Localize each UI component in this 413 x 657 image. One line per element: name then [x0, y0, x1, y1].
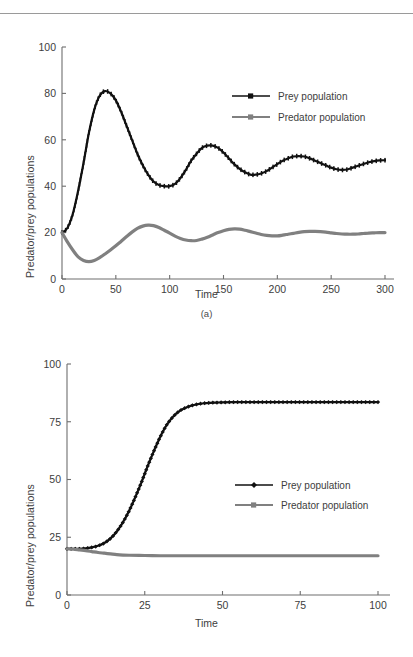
y-tick-label: 0 — [55, 589, 61, 601]
y-tick-label: 40 — [44, 180, 56, 192]
data-point-marker — [309, 156, 311, 161]
data-point-marker — [119, 107, 121, 112]
data-point-marker — [76, 195, 78, 200]
data-point-marker — [129, 131, 131, 136]
data-point-marker — [248, 172, 250, 177]
series-predator — [62, 225, 385, 261]
data-point-marker — [277, 400, 281, 404]
legend-swatch-marker — [251, 482, 257, 488]
data-point-marker — [202, 145, 204, 150]
data-point-marker — [343, 400, 347, 404]
data-point-marker — [103, 89, 105, 94]
legend-entry-label: Predator population — [278, 112, 365, 123]
y-tick-label: 0 — [50, 273, 56, 285]
series-line — [67, 549, 378, 556]
data-point-marker — [82, 165, 84, 170]
data-point-marker — [368, 400, 372, 404]
data-point-marker — [314, 400, 318, 404]
data-point-marker — [302, 400, 306, 404]
chart-b-y-axis-label: Predator/prey populations — [24, 484, 36, 607]
chart-a-y-axis-label: Predator/prey populations — [24, 155, 36, 278]
chart-a-panel-caption: (a) — [0, 308, 413, 319]
data-point-marker — [127, 127, 129, 132]
data-point-marker — [244, 170, 246, 175]
data-point-marker — [196, 152, 198, 157]
data-point-marker — [96, 100, 98, 105]
data-point-marker — [124, 119, 126, 124]
data-point-marker — [142, 164, 144, 169]
legend-entry-label: Prey population — [281, 480, 351, 491]
data-point-marker — [159, 183, 161, 188]
data-point-marker — [359, 400, 363, 404]
data-point-marker — [364, 400, 368, 404]
data-point-marker — [322, 400, 326, 404]
data-point-marker — [90, 545, 94, 549]
data-point-marker — [261, 171, 263, 176]
data-point-marker — [206, 144, 208, 149]
data-point-marker — [318, 400, 322, 404]
x-tick-label: 0 — [64, 599, 70, 611]
data-point-marker — [300, 154, 302, 159]
data-point-marker — [214, 144, 216, 149]
y-tick-label: 75 — [49, 416, 61, 428]
data-point-marker — [310, 400, 314, 404]
data-point-marker — [252, 173, 254, 178]
data-point-marker — [329, 165, 331, 170]
data-point-marker — [181, 174, 183, 179]
data-point-marker — [342, 168, 344, 173]
data-point-marker — [121, 111, 123, 116]
data-point-marker — [123, 115, 125, 120]
data-point-marker — [130, 135, 132, 140]
legend-swatch-marker — [248, 93, 253, 98]
data-point-marker — [339, 400, 343, 404]
data-point-marker — [73, 208, 75, 213]
data-point-marker — [179, 177, 181, 182]
series-prey — [67, 402, 378, 549]
data-point-marker — [376, 400, 380, 404]
data-point-marker — [313, 158, 315, 163]
data-point-marker — [228, 155, 230, 160]
data-point-marker — [321, 161, 323, 166]
y-tick-label: 100 — [43, 358, 61, 370]
data-point-marker — [292, 154, 294, 159]
data-point-marker — [164, 184, 166, 189]
x-tick-label: 25 — [139, 599, 151, 611]
data-point-marker — [190, 159, 192, 164]
data-point-marker — [257, 172, 259, 177]
data-point-marker — [87, 134, 89, 139]
y-tick-label: 100 — [38, 41, 56, 53]
chart-b-canvas: 02550751000255075100Prey populationPreda… — [0, 345, 413, 633]
y-tick-label: 80 — [44, 87, 56, 99]
data-point-marker — [347, 400, 351, 404]
data-point-marker — [244, 400, 248, 404]
top-horizontal-rule — [0, 13, 413, 14]
data-point-marker — [144, 168, 146, 173]
data-point-marker — [89, 126, 91, 131]
data-point-marker — [330, 400, 334, 404]
data-point-marker — [375, 159, 377, 164]
data-point-marker — [325, 163, 327, 168]
data-point-marker — [236, 400, 240, 404]
data-point-marker — [147, 171, 149, 176]
data-point-marker — [84, 152, 86, 157]
data-point-marker — [281, 400, 285, 404]
data-point-marker — [97, 96, 99, 101]
data-point-marker — [363, 162, 365, 167]
x-tick-label: 75 — [294, 599, 306, 611]
data-point-marker — [94, 105, 96, 110]
data-point-marker — [134, 144, 136, 149]
data-point-marker — [289, 400, 293, 404]
data-point-marker — [285, 400, 289, 404]
data-point-marker — [152, 178, 154, 183]
y-tick-label: 25 — [49, 531, 61, 543]
data-point-marker — [65, 228, 67, 233]
data-point-marker — [92, 113, 94, 118]
data-point-marker — [188, 162, 190, 167]
data-point-marker — [273, 400, 277, 404]
data-point-marker — [359, 163, 361, 168]
data-point-marker — [384, 158, 386, 163]
data-point-marker — [283, 158, 285, 163]
figure-a: 020406080100050100150200250300Prey popul… — [0, 20, 413, 330]
data-point-marker — [222, 149, 224, 154]
data-point-marker — [78, 186, 80, 191]
